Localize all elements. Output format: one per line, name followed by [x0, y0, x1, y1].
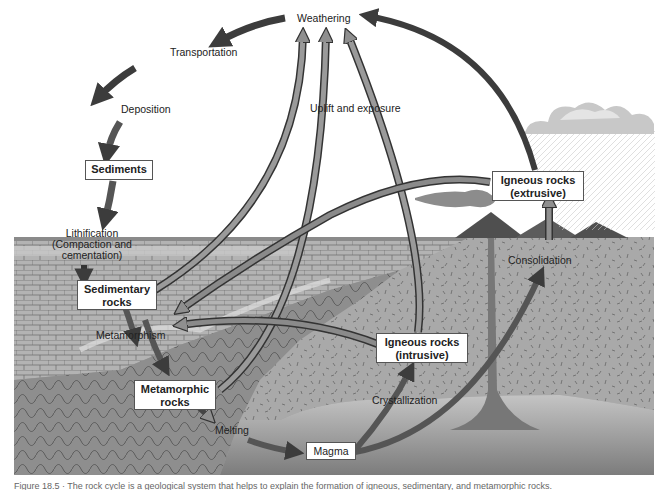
label-metamorphism: Metamorphism	[96, 329, 165, 341]
node-igneous-intrusive: Igneous rocks (intrusive)	[376, 333, 468, 363]
node-igneous-extrusive-line1: Igneous rocks	[497, 174, 579, 187]
label-transportation: Transportation	[170, 46, 237, 58]
node-metamorphic-line2: rocks	[139, 396, 211, 409]
cloud-rain	[520, 102, 655, 230]
node-igneous-intrusive-line2: (intrusive)	[381, 349, 463, 362]
rock-cycle-diagram: Weathering Transportation Deposition Sed…	[0, 0, 664, 490]
label-weathering: Weathering	[297, 12, 351, 24]
node-metamorphic-rocks: Metamorphic rocks	[134, 380, 216, 410]
node-igneous-intrusive-line1: Igneous rocks	[381, 336, 463, 349]
node-metamorphic-line1: Metamorphic	[139, 383, 211, 396]
node-igneous-extrusive: Igneous rocks (extrusive)	[492, 171, 584, 201]
node-magma: Magma	[306, 442, 356, 460]
label-melting: Melting	[215, 424, 249, 436]
figure-caption: Figure 18.5 · The rock cycle is a geolog…	[14, 478, 654, 490]
node-sedimentary-line1: Sedimentary	[82, 283, 152, 296]
label-lithification: Lithification (Compaction and cementatio…	[52, 228, 132, 261]
label-consolidation: Consolidation	[508, 254, 572, 266]
node-sedimentary-line2: rocks	[82, 296, 152, 309]
label-crystallization: Crystallization	[372, 394, 437, 406]
node-sedimentary-rocks: Sedimentary rocks	[77, 280, 157, 310]
node-sediments: Sediments	[85, 160, 153, 180]
label-uplift-and-exposure: Uplift and exposure	[310, 102, 400, 114]
label-lithification-line3: cementation)	[52, 250, 132, 261]
node-igneous-extrusive-line2: (extrusive)	[497, 187, 579, 200]
label-deposition: Deposition	[121, 103, 171, 115]
